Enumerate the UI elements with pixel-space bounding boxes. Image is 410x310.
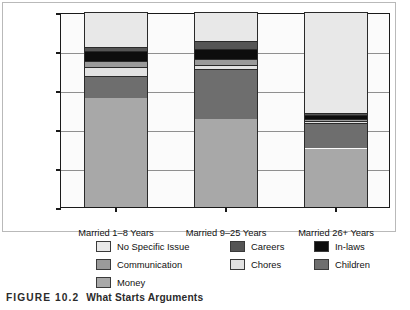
bar-segment-careers <box>305 113 367 115</box>
bar-segment-chores <box>195 65 257 69</box>
plot-area: 020406080100 Married 1–8 YearsMarried 9–… <box>60 13 390 208</box>
bar-segment-communication <box>305 119 367 121</box>
y-axis-title: PERCENTAGE OF ARGUMENTS <box>19 0 29 27</box>
y-axis-title-wrapper: PERCENTAGE OF ARGUMENTS <box>22 13 36 208</box>
bar-segment-money <box>305 149 367 208</box>
bar-segment-money <box>85 98 147 207</box>
bar-segment-chores <box>85 67 147 77</box>
bar-segment-chores <box>305 121 367 123</box>
y-tick-mark <box>56 130 61 131</box>
x-axis-label-3: Married 26+ Years <box>298 228 374 238</box>
legend-label: Children <box>335 259 370 270</box>
y-tick-mark <box>56 52 61 53</box>
legend-item-no-specific-issue: No Specific Issue <box>96 239 189 253</box>
bar-segment-no-specific-issue <box>195 12 257 41</box>
legend-column-2: CareersChores <box>230 239 284 275</box>
y-tick-mark <box>56 91 61 92</box>
legend-swatch <box>314 259 329 270</box>
bar-segment-communication <box>85 61 147 67</box>
legend-swatch <box>314 241 329 252</box>
legend-swatch <box>230 259 245 270</box>
legend-swatch <box>96 241 111 252</box>
bar-segment-careers <box>195 41 257 49</box>
bar-segment-communication <box>195 59 257 65</box>
legend-item-communication: Communication <box>96 257 189 271</box>
bar-segment-no-specific-issue <box>85 12 147 47</box>
x-tick-mark <box>225 207 226 212</box>
bar-segment-in-laws <box>85 51 147 61</box>
bar-segment-children <box>305 123 367 148</box>
legend-swatch <box>96 259 111 270</box>
bar-segment-money <box>195 119 257 207</box>
bar-segment-children <box>195 69 257 120</box>
legend-column-3: In-lawsChildren <box>314 239 370 275</box>
legend-label: Chores <box>251 259 281 270</box>
legend-item-in-laws: In-laws <box>314 239 370 253</box>
bar-1 <box>84 12 148 207</box>
x-axis-label-1: Married 1–8 Years <box>78 228 153 238</box>
legend-label: No Specific Issue <box>117 241 189 252</box>
legend-item-chores: Chores <box>230 257 284 271</box>
bar-segment-no-specific-issue <box>305 12 367 113</box>
x-axis-label-2: Married 9–25 Years <box>186 228 267 238</box>
legend-label: Money <box>117 277 145 288</box>
bar-segment-children <box>85 76 147 97</box>
figure-caption: FIGURE 10.2What Starts Arguments <box>6 292 203 303</box>
figure-number: FIGURE 10.2 <box>6 292 79 303</box>
legend-label: Communication <box>117 259 182 270</box>
x-tick-mark <box>335 207 336 212</box>
bar-segment-in-laws <box>195 49 257 59</box>
figure-title: What Starts Arguments <box>86 292 203 303</box>
legend-item-money: Money <box>96 275 189 289</box>
bar-segment-careers <box>85 47 147 51</box>
legend-item-children: Children <box>314 257 370 271</box>
bar-3 <box>304 12 368 207</box>
legend-label: In-laws <box>335 241 365 252</box>
y-tick-mark <box>56 13 61 14</box>
figure-container: PERCENTAGE OF ARGUMENTS 020406080100 Mar… <box>0 0 410 310</box>
legend-column-1: No Specific IssueCommunicationMoney <box>96 239 189 293</box>
bar-2 <box>194 12 258 207</box>
x-tick-mark <box>115 207 116 212</box>
legend-swatch <box>230 241 245 252</box>
legend-label: Careers <box>251 241 284 252</box>
legend-item-careers: Careers <box>230 239 284 253</box>
chart-legend: No Specific IssueCommunicationMoneyCaree… <box>96 239 386 283</box>
y-tick-mark <box>56 169 61 170</box>
y-tick-mark <box>56 208 61 209</box>
legend-swatch <box>96 277 111 288</box>
bar-segment-in-laws <box>305 115 367 119</box>
